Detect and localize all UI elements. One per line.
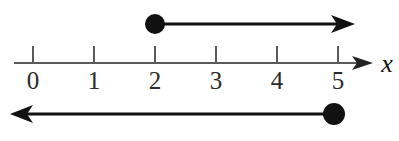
tick-label-2: 2 [149,67,162,94]
tick-label-0: 0 [27,67,40,94]
axis [14,56,373,70]
number-line-graphic: 0 1 2 3 4 5 x [0,0,399,141]
upper-ray-closed-endpoint-dot [145,14,165,34]
tick-label-1: 1 [88,67,101,94]
axis-ticks [33,46,338,63]
number-line-figure: 0 1 2 3 4 5 x [0,0,399,141]
tick-label-4: 4 [271,67,284,94]
axis-tick-labels: 0 1 2 3 4 5 [27,67,345,94]
lower-ray [10,103,345,125]
tick-label-3: 3 [210,67,223,94]
axis-label-x: x [380,49,393,78]
lower-ray-closed-endpoint-dot [323,103,345,125]
upper-ray [145,14,355,34]
tick-label-5: 5 [332,67,345,94]
